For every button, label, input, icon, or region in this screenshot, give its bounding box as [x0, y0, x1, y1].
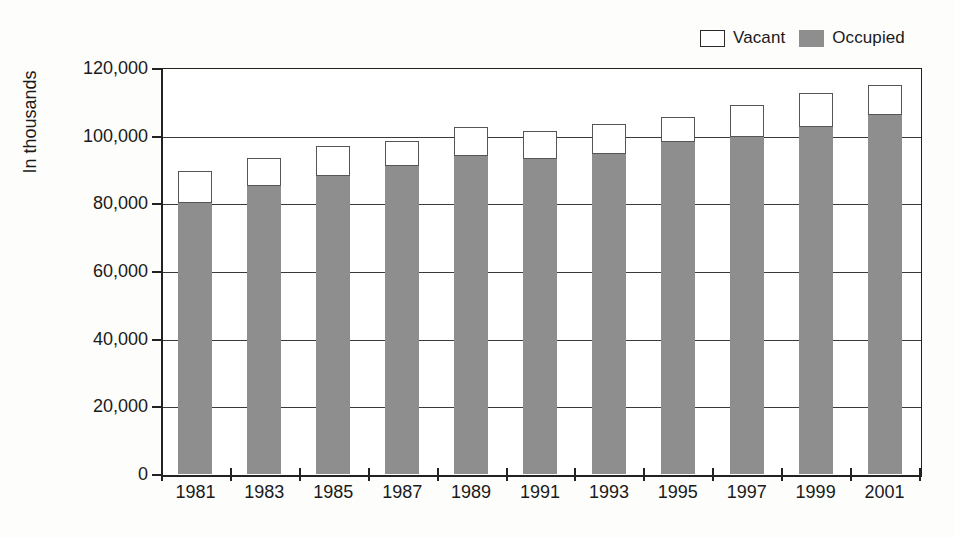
- x-axis-tick-label: 1981: [160, 482, 230, 503]
- y-axis-tick-label: 0: [38, 464, 148, 485]
- bar-segment-occupied: [730, 137, 764, 474]
- bar-segment-occupied: [385, 166, 419, 474]
- y-axis-tick-label: 20,000: [38, 396, 148, 417]
- bar-segment-occupied: [454, 156, 488, 474]
- bar-series-container: [161, 68, 919, 474]
- y-axis-tick-labels: 020,00040,00060,00080,000100,000120,000: [32, 68, 148, 474]
- x-axis-tick-labels: 1981198319851987198919911993199519971999…: [161, 482, 919, 512]
- legend-entry-occupied: Occupied: [799, 28, 905, 48]
- bar-group: [385, 68, 419, 474]
- x-axis-tick-mark: [919, 468, 921, 481]
- bar-segment-occupied: [592, 154, 626, 474]
- bar-segment-occupied: [247, 186, 281, 474]
- x-axis-tick-mark: [506, 468, 508, 481]
- bar-segment-vacant: [316, 146, 350, 176]
- bar-segment-vacant: [868, 85, 902, 115]
- x-axis-tick-label: 1999: [781, 482, 851, 503]
- legend-entry-vacant: Vacant: [700, 28, 785, 48]
- bar-group: [454, 68, 488, 474]
- bar-segment-occupied: [523, 159, 557, 474]
- x-axis-tick-label: 1997: [712, 482, 782, 503]
- x-axis-tick-mark: [299, 468, 301, 481]
- bar-group: [868, 68, 902, 474]
- bar-segment-vacant: [247, 158, 281, 187]
- bar-group: [247, 68, 281, 474]
- x-axis-tick-label: 1995: [643, 482, 713, 503]
- x-axis-tick-label: 1987: [367, 482, 437, 503]
- bar-group: [316, 68, 350, 474]
- x-axis-tick-mark: [161, 468, 163, 481]
- y-axis-tick-label: 60,000: [38, 261, 148, 282]
- bar-group: [799, 68, 833, 474]
- bar-group: [592, 68, 626, 474]
- chart-legend: Vacant Occupied: [700, 28, 905, 48]
- x-axis-tick-mark: [230, 468, 232, 481]
- bar-segment-vacant: [385, 141, 419, 166]
- bar-group: [730, 68, 764, 474]
- x-axis-tick-mark: [850, 468, 852, 481]
- bar-segment-vacant: [178, 171, 212, 203]
- x-axis-tick-label: 1989: [436, 482, 506, 503]
- y-axis-tick-label: 80,000: [38, 193, 148, 214]
- y-axis-tick-label: 40,000: [38, 328, 148, 349]
- legend-label-vacant: Vacant: [733, 28, 785, 48]
- bar-segment-vacant: [454, 127, 488, 156]
- bar-group: [178, 68, 212, 474]
- x-axis-tick-mark: [643, 468, 645, 481]
- x-axis-tick-label: 2001: [850, 482, 920, 503]
- x-axis-tick-mark: [574, 468, 576, 481]
- bar-segment-occupied: [178, 203, 212, 474]
- occupied-swatch-icon: [799, 30, 824, 47]
- bar-group: [661, 68, 695, 474]
- bar-segment-occupied: [799, 127, 833, 474]
- y-axis-tick-label: 100,000: [38, 125, 148, 146]
- bar-segment-occupied: [868, 115, 902, 474]
- x-axis-tick-label: 1991: [505, 482, 575, 503]
- bar-segment-occupied: [316, 176, 350, 474]
- bar-segment-vacant: [592, 124, 626, 154]
- legend-label-occupied: Occupied: [832, 28, 905, 48]
- x-axis-tick-mark: [368, 468, 370, 481]
- x-axis-tick-mark: [437, 468, 439, 481]
- x-axis-tick-label: 1983: [229, 482, 299, 503]
- x-axis-tick-label: 1985: [298, 482, 368, 503]
- bar-segment-vacant: [799, 93, 833, 127]
- bar-segment-vacant: [661, 117, 695, 142]
- bar-group: [523, 68, 557, 474]
- chart-figure: Vacant Occupied In thousands 020,00040,0…: [0, 0, 955, 538]
- x-axis-tick-label: 1993: [574, 482, 644, 503]
- x-axis-tick-mark: [781, 468, 783, 481]
- bar-segment-vacant: [523, 131, 557, 160]
- bar-segment-occupied: [661, 142, 695, 474]
- bar-segment-vacant: [730, 105, 764, 137]
- y-axis-tick-label: 120,000: [38, 58, 148, 79]
- vacant-swatch-icon: [700, 30, 725, 47]
- x-axis-tick-mark: [712, 468, 714, 481]
